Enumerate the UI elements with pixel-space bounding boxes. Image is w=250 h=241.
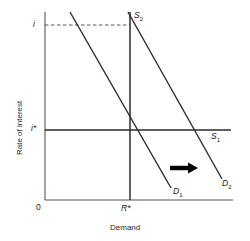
demand-curve-d1 <box>70 12 171 188</box>
demand-curve-d2 <box>128 12 222 179</box>
demand-2-sub: 2 <box>228 184 231 190</box>
supply-demand-diagram: Rate of interest Demand 0 i i* R* S2 S1 … <box>0 0 250 241</box>
demand-curve-d2-label: D2 <box>222 179 231 190</box>
rate-equilibrium-star: * <box>33 123 36 133</box>
quantity-star: * <box>127 203 130 213</box>
y-axis-title: Rate of interest <box>16 101 24 155</box>
origin-label: 0 <box>36 203 41 212</box>
x-axis-title: Demand <box>110 224 140 232</box>
shift-arrow-icon <box>170 163 198 174</box>
demand-curve-d1-label: D1 <box>173 187 182 198</box>
supply-2-sub: 2 <box>140 16 143 22</box>
rate-high-label: i <box>33 20 35 29</box>
supply-curve-s2-label: S2 <box>134 11 143 22</box>
quantity-equilibrium-label: R* <box>121 204 130 213</box>
supply-curve-s1-label: S1 <box>211 132 220 143</box>
supply-1-sub: 1 <box>217 137 220 143</box>
demand-1-sub: 1 <box>179 192 182 198</box>
rate-equilibrium-label: i* <box>31 124 36 133</box>
